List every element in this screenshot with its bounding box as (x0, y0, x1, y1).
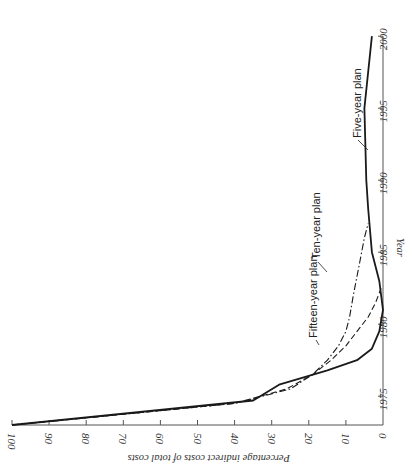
year-tick-label: 2000 (377, 28, 389, 51)
y-axis-title: Percentage indirect costs of total costs (128, 453, 291, 464)
percentage-tick-label: 50 (192, 433, 204, 445)
five-year-plan-line (12, 36, 383, 425)
ten-year-leader-line (318, 262, 327, 272)
fifteen-year-plan-line (12, 288, 381, 425)
percentage-tick-label: 60 (154, 433, 166, 445)
year-tick-label: 1995 (377, 100, 389, 123)
percentage-tick-label: 40 (229, 433, 241, 445)
chart-canvas: 0102030405060708090100197519801985199019… (0, 0, 413, 471)
year-tick-label: 1990 (377, 172, 389, 195)
fifteen-year-leader-line (316, 340, 319, 345)
axes: 0102030405060708090100197519801985199019… (6, 28, 389, 450)
percentage-tick-label: 10 (340, 433, 352, 445)
percentage-tick-label: 80 (80, 433, 92, 445)
fifteen-year-plan-label: Fifteen-year plan (307, 255, 319, 338)
percentage-tick-label: 90 (43, 433, 55, 445)
ten-year-plan-label: Ten-year plan (310, 192, 322, 259)
percentage-tick-label: 100 (6, 433, 18, 450)
percentage-tick-label: 20 (303, 433, 315, 445)
five-year-plan-label: Five-year plan (351, 68, 363, 138)
percentage-tick-label: 30 (266, 432, 278, 445)
percentage-tick-label: 70 (117, 433, 129, 445)
x-axis-title: Year (395, 238, 406, 258)
five-year-leader-line (358, 140, 368, 150)
percentage-tick-label: 0 (377, 433, 389, 439)
year-tick-label: 1975 (377, 388, 389, 411)
year-tick-label: 1985 (377, 244, 389, 267)
series-group (12, 36, 383, 425)
